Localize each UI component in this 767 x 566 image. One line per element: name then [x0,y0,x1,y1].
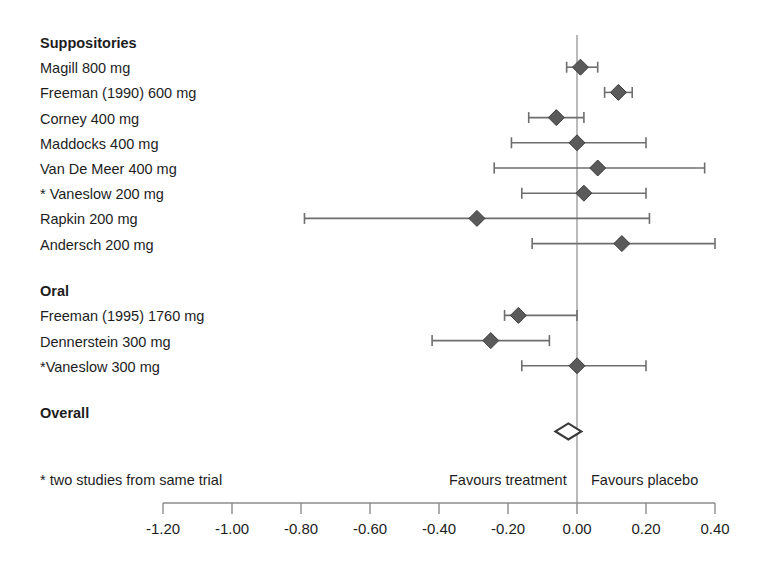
study-marker-1 [605,84,633,100]
study-marker-2 [529,110,584,126]
study-marker-6 [304,210,649,226]
study-marker-4 [494,160,704,176]
study-marker-3 [511,135,646,151]
study-marker-9 [432,333,549,349]
study-marker-7 [532,236,715,252]
study-marker-10 [522,358,646,374]
study-marker-5 [522,185,646,201]
study-marker-0 [567,59,598,75]
study-marker-8 [505,307,577,323]
forest-plot-canvas [0,0,767,566]
